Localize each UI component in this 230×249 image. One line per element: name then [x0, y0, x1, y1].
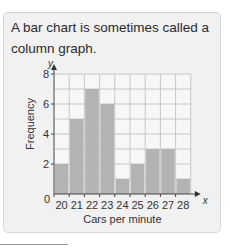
origin-label: 0: [44, 193, 50, 205]
bar: [161, 149, 175, 194]
y-tick-label: 4: [43, 128, 49, 140]
x-tick-label: 27: [162, 199, 174, 211]
divider: [0, 244, 68, 245]
x-tick-label: 21: [71, 199, 83, 211]
x-tick-label: 22: [86, 199, 98, 211]
x-axis-symbol: x: [202, 195, 209, 206]
x-axis-label: Cars per minute: [83, 213, 161, 225]
bar: [116, 179, 130, 194]
x-tick-label: 24: [116, 199, 128, 211]
bar-chart: 24680202122232425262728xyCars per minute…: [0, 0, 230, 249]
bar: [146, 149, 160, 194]
bar: [100, 104, 114, 194]
x-tick-label: 25: [131, 199, 143, 211]
y-axis-symbol: y: [47, 58, 54, 69]
y-axis-label: Frequency: [24, 98, 36, 150]
bar: [131, 164, 145, 194]
bar: [176, 179, 190, 194]
bar: [85, 89, 99, 194]
y-tick-label: 2: [43, 158, 49, 170]
x-tick-label: 26: [147, 199, 159, 211]
x-axis-arrow-icon: [195, 191, 201, 197]
y-tick-label: 8: [43, 68, 49, 80]
y-tick-label: 6: [43, 98, 49, 110]
x-tick-label: 28: [177, 199, 189, 211]
x-tick-label: 20: [55, 199, 67, 211]
bar: [55, 164, 69, 194]
bar: [70, 119, 84, 194]
x-tick-label: 23: [101, 199, 113, 211]
